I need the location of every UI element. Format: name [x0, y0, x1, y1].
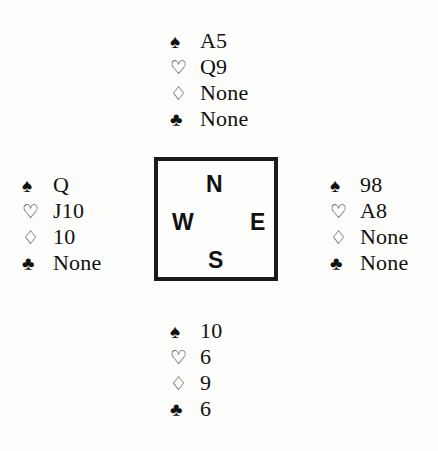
east-hearts-rank: A8 [352, 198, 387, 224]
south-clubs-row: ♣ 6 [170, 396, 222, 422]
south-clubs-rank: 6 [192, 396, 211, 422]
north-spades-rank: A5 [192, 28, 227, 54]
west-clubs-rank: None [44, 250, 101, 276]
club-suit-symbol: ♣ [170, 107, 192, 133]
east-hearts-row: ♡ A8 [330, 198, 408, 224]
east-hand: ♠ 98 ♡ A8 ♢ None ♣ None [330, 172, 408, 276]
club-suit-symbol: ♣ [170, 397, 192, 423]
heart-suit-symbol: ♡ [22, 199, 44, 225]
west-clubs-row: ♣ None [22, 250, 101, 276]
spade-suit-symbol: ♠ [170, 319, 192, 345]
west-spades-rank: Q [44, 172, 69, 198]
north-hand: ♠ A5 ♡ Q9 ♢ None ♣ None [170, 28, 248, 132]
west-hand: ♠ Q ♡ J10 ♢ 10 ♣ None [22, 172, 101, 276]
north-diamonds-rank: None [192, 80, 248, 106]
spade-suit-symbol: ♠ [330, 173, 352, 199]
diamond-suit-symbol: ♢ [170, 371, 192, 397]
club-suit-symbol: ♣ [22, 251, 44, 277]
west-hearts-rank: J10 [44, 198, 84, 224]
east-clubs-rank: None [352, 250, 408, 276]
club-suit-symbol: ♣ [330, 251, 352, 277]
west-spades-row: ♠ Q [22, 172, 101, 198]
north-spades-row: ♠ A5 [170, 28, 248, 54]
compass-box: N W E S [154, 157, 278, 281]
west-diamonds-row: ♢ 10 [22, 224, 101, 250]
east-spades-rank: 98 [352, 172, 382, 198]
south-hearts-row: ♡ 6 [170, 344, 222, 370]
heart-suit-symbol: ♡ [330, 199, 352, 225]
south-spades-row: ♠ 10 [170, 318, 222, 344]
west-hearts-row: ♡ J10 [22, 198, 101, 224]
south-diamonds-row: ♢ 9 [170, 370, 222, 396]
south-diamonds-rank: 9 [192, 370, 211, 396]
west-diamonds-rank: 10 [44, 224, 75, 250]
south-hearts-rank: 6 [192, 344, 211, 370]
south-spades-rank: 10 [192, 318, 222, 344]
east-diamonds-row: ♢ None [330, 224, 408, 250]
north-clubs-row: ♣ None [170, 106, 248, 132]
compass-south-label: S [208, 249, 223, 272]
north-clubs-rank: None [192, 106, 248, 132]
compass-west-label: W [172, 211, 194, 234]
heart-suit-symbol: ♡ [170, 345, 192, 371]
north-diamonds-row: ♢ None [170, 80, 248, 106]
diamond-suit-symbol: ♢ [22, 225, 44, 251]
diamond-suit-symbol: ♢ [330, 225, 352, 251]
east-diamonds-rank: None [352, 224, 408, 250]
east-clubs-row: ♣ None [330, 250, 408, 276]
compass-east-label: E [250, 211, 265, 234]
bridge-hand-diagram: ♠ A5 ♡ Q9 ♢ None ♣ None ♠ Q ♡ J10 ♢ 10 [0, 0, 438, 451]
south-hand: ♠ 10 ♡ 6 ♢ 9 ♣ 6 [170, 318, 222, 422]
compass-north-label: N [206, 173, 223, 196]
diamond-suit-symbol: ♢ [170, 81, 192, 107]
east-spades-row: ♠ 98 [330, 172, 408, 198]
north-hearts-rank: Q9 [192, 54, 227, 80]
spade-suit-symbol: ♠ [22, 173, 44, 199]
heart-suit-symbol: ♡ [170, 55, 192, 81]
spade-suit-symbol: ♠ [170, 29, 192, 55]
north-hearts-row: ♡ Q9 [170, 54, 248, 80]
